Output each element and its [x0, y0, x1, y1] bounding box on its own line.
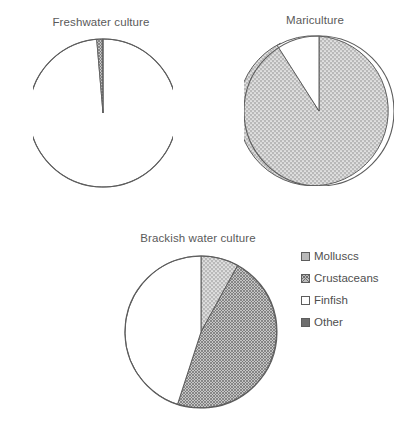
pie-mariculture — [244, 34, 394, 190]
legend-item-molluscs[interactable]: Molluscs — [301, 246, 409, 266]
legend-swatch-molluscs-icon — [301, 252, 310, 261]
pie-chart-figure: Freshwater culture — [0, 0, 411, 435]
cropped-heading-remnant — [120, 0, 300, 3]
panel-title-mariculture: Mariculture — [222, 14, 408, 26]
legend-label-finfish: Finfish — [314, 294, 348, 306]
legend-label-other: Other — [314, 316, 343, 328]
pie-svg-brackish — [121, 252, 281, 412]
legend-label-crustaceans: Crustaceans — [314, 272, 379, 284]
legend-swatch-crustaceans-icon — [301, 274, 310, 283]
legend-swatch-other-icon — [301, 318, 310, 327]
panel-brackish-water-culture: Brackish water culture — [98, 230, 298, 435]
legend-item-crustaceans[interactable]: Crustaceans — [301, 268, 409, 288]
pie-svg-mariculture — [244, 34, 394, 186]
legend: Molluscs Crustaceans Finfish Other — [301, 246, 409, 334]
panel-freshwater-culture: Freshwater culture — [8, 12, 194, 218]
pie-svg-freshwater — [33, 38, 173, 188]
panel-mariculture: Mariculture — [222, 8, 408, 218]
legend-item-finfish[interactable]: Finfish — [301, 290, 409, 310]
pie-brackish-water-culture — [121, 252, 281, 416]
panel-title-brackish: Brackish water culture — [98, 232, 298, 244]
legend-swatch-finfish-icon — [301, 296, 310, 305]
legend-label-molluscs: Molluscs — [314, 250, 359, 262]
panel-title-freshwater: Freshwater culture — [8, 16, 194, 28]
legend-item-other[interactable]: Other — [301, 312, 409, 332]
pie-freshwater-culture — [33, 38, 173, 192]
